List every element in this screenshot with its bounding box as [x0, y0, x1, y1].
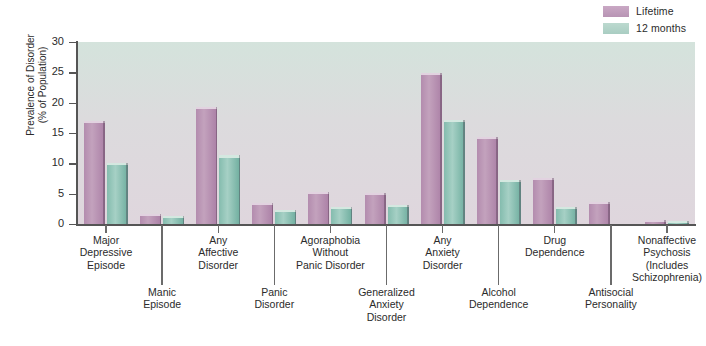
bar-shadow-edge — [440, 73, 442, 224]
bar-12-months — [275, 210, 296, 224]
bar-top-highlight — [668, 221, 689, 223]
x-axis-label-line: Disorder — [231, 298, 317, 310]
bar-face — [444, 120, 465, 224]
bar-12-months — [556, 207, 577, 224]
bar-lifetime — [589, 202, 610, 224]
bar-face — [308, 192, 329, 224]
category-separator — [218, 225, 219, 233]
bar-top-highlight — [365, 193, 386, 195]
x-axis-label-line: Generalized — [343, 286, 429, 298]
y-tick-mark — [69, 42, 77, 43]
x-axis-label-line: Affective — [175, 246, 261, 258]
x-axis-label-line: Manic — [119, 286, 205, 298]
bar-shadow-edge — [575, 207, 577, 224]
x-axis-label-line: Alcohol — [456, 286, 542, 298]
y-tick-label: 25 — [0, 65, 64, 77]
bar-top-highlight — [275, 210, 296, 212]
x-axis-label-line: Nonaffective — [624, 234, 706, 246]
legend-item-12-months: 12 months — [603, 21, 686, 35]
x-axis-label-line: (Includes — [624, 259, 706, 271]
y-tick-label: 30 — [0, 35, 64, 47]
bar-shadow-edge — [351, 207, 353, 224]
x-axis-label-line: Episode — [63, 259, 149, 271]
bar-lifetime — [84, 121, 105, 224]
x-axis-label-line: Psychosis — [624, 246, 706, 258]
x-axis-category-label: AlcoholDependence — [456, 286, 542, 311]
bar-shadow-edge — [328, 192, 330, 224]
bar-top-highlight — [500, 180, 521, 182]
bar-shadow-edge — [384, 193, 386, 224]
category-separator — [498, 225, 499, 285]
plot-area — [78, 42, 695, 224]
y-axis-title: Prevalence of Disorder (% of Population) — [25, 0, 49, 170]
x-axis-label-line: Anxiety — [400, 246, 486, 258]
bar-lifetime — [645, 220, 666, 224]
y-tick-label: 0 — [0, 217, 64, 229]
x-axis-category-label: AnyAnxietyDisorder — [400, 234, 486, 271]
x-axis-label-line: Depressive — [63, 246, 149, 258]
x-axis-category-label: AnyAffectiveDisorder — [175, 234, 261, 271]
legend-swatch-12-months-icon — [603, 23, 629, 34]
category-separator — [386, 225, 387, 285]
bar-top-highlight — [331, 207, 352, 209]
bar-lifetime — [421, 73, 442, 224]
y-tick-mark — [69, 103, 77, 104]
x-axis-label-line: Schizophrenia) — [624, 271, 706, 283]
category-separator — [330, 225, 331, 233]
bar-top-highlight — [533, 178, 554, 180]
bar-face — [500, 180, 521, 224]
x-axis-category-label: MajorDepressiveEpisode — [63, 234, 149, 271]
bar-shadow-edge — [496, 137, 498, 224]
x-axis-label-line: Any — [175, 234, 261, 246]
category-separator — [274, 225, 275, 285]
bar-face — [107, 163, 128, 224]
bar-face — [84, 121, 105, 224]
bar-face — [331, 207, 352, 224]
x-axis-category-label: GeneralizedAnxietyDisorder — [343, 286, 429, 323]
y-tick-label: 5 — [0, 187, 64, 199]
x-axis-label-line: Disorder — [343, 311, 429, 323]
y-axis-title-line2: (% of Population) — [37, 0, 49, 170]
bar-shadow-edge — [103, 121, 105, 224]
bar-lifetime — [196, 107, 217, 224]
category-separator — [105, 225, 106, 233]
bar-top-highlight — [84, 121, 105, 123]
bar-shadow-edge — [272, 203, 274, 224]
bar-top-highlight — [645, 220, 666, 222]
y-tick-label: 10 — [0, 156, 64, 168]
bar-face — [477, 137, 498, 224]
bar-top-highlight — [219, 155, 240, 157]
x-axis-label-line: Disorder — [175, 259, 261, 271]
x-axis-category-label: PanicDisorder — [231, 286, 317, 311]
x-axis-label-line: Dependence — [456, 298, 542, 310]
legend-label-12-months: 12 months — [636, 22, 686, 34]
bar-top-highlight — [556, 207, 577, 209]
bar-face — [556, 207, 577, 224]
x-axis-label-line: Anxiety — [343, 298, 429, 310]
x-axis-category-label: ManicEpisode — [119, 286, 205, 311]
bar-lifetime — [308, 192, 329, 224]
bar-shadow-edge — [687, 221, 689, 224]
bar-shadow-edge — [183, 216, 185, 224]
bar-12-months — [331, 207, 352, 224]
bar-shadow-edge — [239, 155, 241, 224]
bar-lifetime — [252, 203, 273, 224]
bar-face — [252, 203, 273, 224]
category-separator — [554, 225, 555, 233]
x-axis-label-line: Dependence — [512, 246, 598, 258]
x-axis-label-line: Agoraphobia — [287, 234, 373, 246]
bar-lifetime — [477, 137, 498, 224]
bar-top-highlight — [196, 107, 217, 109]
x-axis-category-label: AgoraphobiaWithoutPanic Disorder — [287, 234, 373, 271]
y-tick-mark — [69, 163, 77, 164]
x-axis-label-line: Any — [400, 234, 486, 246]
bar-shadow-edge — [552, 178, 554, 224]
bar-top-highlight — [252, 203, 273, 205]
x-axis-label-line: Disorder — [400, 259, 486, 271]
bar-face — [533, 178, 554, 224]
y-tick-mark — [69, 72, 77, 73]
bar-shadow-edge — [608, 202, 610, 224]
bar-12-months — [668, 221, 689, 224]
category-separator — [666, 225, 667, 233]
